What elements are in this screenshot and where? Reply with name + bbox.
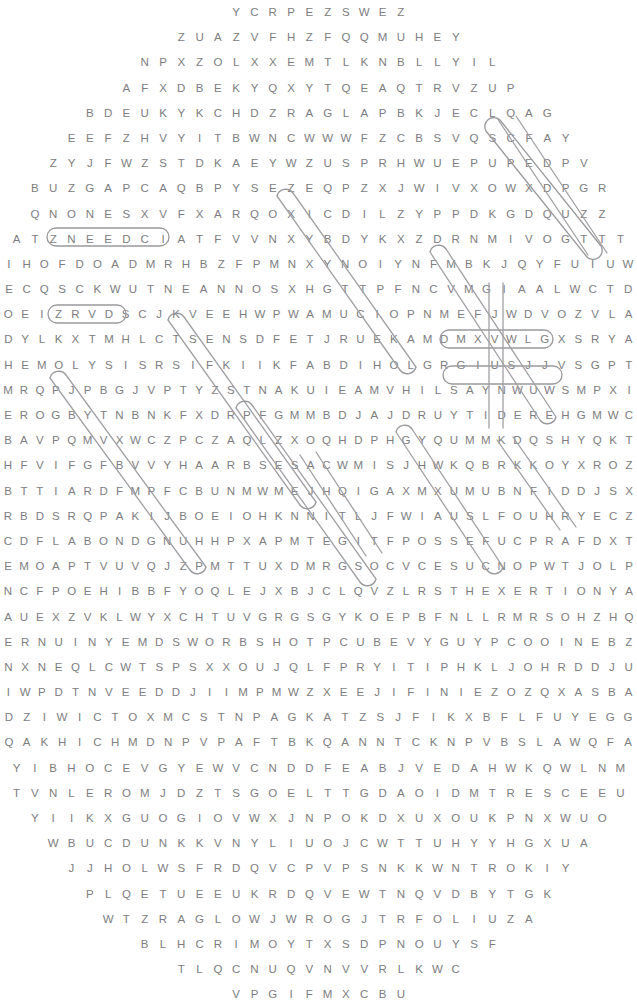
- grid-cell[interactable]: X: [553, 327, 570, 352]
- grid-cell[interactable]: W: [503, 302, 520, 327]
- grid-cell[interactable]: B: [495, 730, 513, 755]
- grid-cell[interactable]: R: [223, 453, 239, 478]
- grid-cell[interactable]: X: [538, 831, 556, 856]
- grid-cell[interactable]: X: [239, 529, 255, 554]
- grid-cell[interactable]: N: [159, 277, 177, 302]
- grid-cell[interactable]: U: [44, 176, 62, 201]
- grid-cell[interactable]: T: [621, 428, 637, 453]
- grid-cell[interactable]: B: [44, 756, 62, 781]
- grid-cell[interactable]: B: [191, 479, 207, 504]
- grid-cell[interactable]: T: [557, 554, 573, 579]
- grid-cell[interactable]: X: [154, 76, 172, 101]
- grid-cell[interactable]: A: [302, 302, 319, 327]
- grid-cell[interactable]: R: [593, 176, 611, 201]
- grid-cell[interactable]: S: [303, 605, 319, 630]
- grid-cell[interactable]: E: [81, 227, 99, 252]
- grid-cell[interactable]: V: [478, 730, 496, 755]
- grid-cell[interactable]: R: [414, 403, 430, 428]
- grid-cell[interactable]: P: [48, 579, 64, 604]
- grid-cell[interactable]: N: [442, 730, 460, 755]
- grid-cell[interactable]: G: [575, 176, 593, 201]
- grid-cell[interactable]: W: [566, 730, 584, 755]
- grid-cell[interactable]: E: [462, 529, 478, 554]
- grid-cell[interactable]: G: [398, 428, 414, 453]
- grid-cell[interactable]: H: [99, 856, 117, 881]
- grid-cell[interactable]: P: [80, 378, 96, 403]
- grid-cell[interactable]: D: [465, 202, 483, 227]
- grid-cell[interactable]: S: [227, 781, 245, 806]
- grid-cell[interactable]: U: [319, 151, 337, 176]
- grid-cell[interactable]: P: [282, 0, 300, 25]
- grid-cell[interactable]: A: [350, 378, 366, 403]
- grid-cell[interactable]: U: [462, 554, 478, 579]
- grid-cell[interactable]: Q: [80, 504, 96, 529]
- grid-cell[interactable]: P: [300, 856, 318, 881]
- grid-cell[interactable]: W: [605, 403, 621, 428]
- grid-cell[interactable]: H: [227, 101, 245, 126]
- grid-cell[interactable]: J: [392, 756, 410, 781]
- grid-cell[interactable]: F: [16, 453, 32, 478]
- grid-cell[interactable]: U: [446, 428, 462, 453]
- grid-cell[interactable]: Z: [620, 630, 637, 655]
- grid-cell[interactable]: L: [62, 781, 80, 806]
- grid-cell[interactable]: P: [501, 806, 519, 831]
- grid-cell[interactable]: B: [127, 579, 143, 604]
- grid-cell[interactable]: V: [32, 453, 48, 478]
- grid-cell[interactable]: R: [67, 302, 84, 327]
- grid-cell[interactable]: C: [478, 554, 494, 579]
- grid-cell[interactable]: D: [101, 302, 118, 327]
- grid-cell[interactable]: U: [124, 277, 142, 302]
- grid-cell[interactable]: N: [494, 554, 510, 579]
- grid-cell[interactable]: H: [501, 831, 519, 856]
- grid-cell[interactable]: G: [319, 605, 335, 630]
- grid-cell[interactable]: Y: [26, 806, 44, 831]
- grid-cell[interactable]: Y: [172, 101, 190, 126]
- grid-cell[interactable]: P: [209, 176, 227, 201]
- grid-cell[interactable]: B: [373, 756, 391, 781]
- grid-cell[interactable]: U: [478, 479, 494, 504]
- grid-cell[interactable]: R: [447, 227, 465, 252]
- grid-cell[interactable]: V: [520, 227, 538, 252]
- grid-cell[interactable]: D: [282, 882, 300, 907]
- grid-cell[interactable]: O: [557, 605, 573, 630]
- grid-cell[interactable]: K: [373, 227, 391, 252]
- grid-cell[interactable]: I: [350, 479, 366, 504]
- grid-cell[interactable]: L: [604, 302, 621, 327]
- grid-cell[interactable]: S: [428, 126, 446, 151]
- grid-cell[interactable]: W: [184, 630, 201, 655]
- grid-cell[interactable]: W: [619, 252, 637, 277]
- grid-cell[interactable]: N: [319, 957, 337, 982]
- grid-cell[interactable]: A: [392, 781, 410, 806]
- grid-cell[interactable]: X: [392, 227, 410, 252]
- grid-cell[interactable]: R: [525, 579, 541, 604]
- grid-cell[interactable]: M: [478, 428, 494, 453]
- grid-cell[interactable]: G: [319, 277, 337, 302]
- grid-cell[interactable]: U: [486, 353, 503, 378]
- grid-cell[interactable]: R: [159, 252, 177, 277]
- grid-cell[interactable]: L: [513, 705, 531, 730]
- grid-cell[interactable]: Q: [355, 25, 373, 50]
- grid-cell[interactable]: V: [402, 630, 419, 655]
- grid-cell[interactable]: U: [136, 831, 154, 856]
- grid-cell[interactable]: T: [620, 353, 637, 378]
- grid-cell[interactable]: E: [285, 327, 302, 352]
- grid-cell[interactable]: N: [494, 378, 510, 403]
- grid-cell[interactable]: C: [136, 227, 154, 252]
- grid-cell[interactable]: O: [605, 453, 621, 478]
- grid-cell[interactable]: T: [26, 227, 44, 252]
- grid-cell[interactable]: X: [283, 277, 301, 302]
- grid-cell[interactable]: K: [425, 730, 443, 755]
- grid-cell[interactable]: Y: [414, 428, 430, 453]
- grid-cell[interactable]: G: [255, 605, 271, 630]
- grid-cell[interactable]: D: [251, 327, 268, 352]
- grid-cell[interactable]: B: [287, 579, 303, 604]
- grid-cell[interactable]: Z: [282, 176, 300, 201]
- grid-cell[interactable]: X: [271, 579, 287, 604]
- grid-cell[interactable]: D: [436, 327, 453, 352]
- grid-cell[interactable]: A: [195, 277, 213, 302]
- grid-cell[interactable]: H: [18, 252, 36, 277]
- grid-cell[interactable]: E: [271, 453, 287, 478]
- grid-cell[interactable]: D: [587, 655, 604, 680]
- grid-cell[interactable]: W: [501, 756, 519, 781]
- grid-cell[interactable]: Y: [410, 202, 428, 227]
